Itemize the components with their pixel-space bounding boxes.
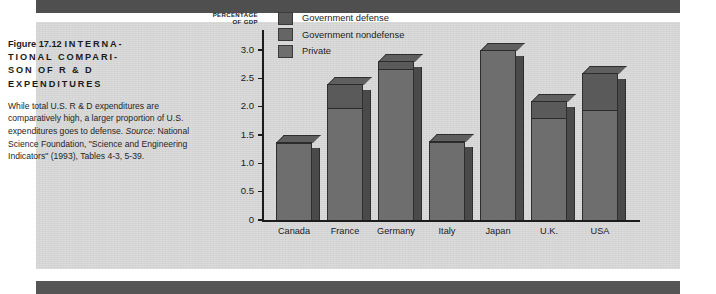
- bar-segment-government-defense: [430, 141, 464, 142]
- bar-segment-private: [583, 136, 617, 220]
- bar-front-face: [582, 73, 618, 220]
- bar-segment-government-nondefense: [481, 50, 515, 80]
- y-axis-tick: [258, 219, 264, 220]
- bar-italy: [429, 141, 465, 220]
- bar-side-face: [312, 148, 320, 220]
- bar-segment-government-defense: [379, 61, 413, 68]
- bar-side-face: [516, 56, 524, 220]
- bar-segment-government-defense: [583, 73, 617, 110]
- legend-swatch: [278, 12, 293, 25]
- figure-number: Figure 17.12: [8, 39, 62, 49]
- y-axis-tick: [258, 106, 264, 107]
- y-axis-tick-label: 1.0: [228, 157, 254, 168]
- x-axis-label: Germany: [370, 226, 422, 236]
- x-axis-label: France: [319, 226, 371, 236]
- bar-segment-private: [328, 149, 362, 220]
- bar-side-face: [618, 79, 626, 220]
- y-axis-tick: [258, 191, 264, 192]
- y-axis-tick: [258, 78, 264, 79]
- legend-swatch: [278, 28, 293, 41]
- bar-segment-government-defense: [532, 101, 566, 118]
- chart-legend: Government defenseGovernment nondefenseP…: [278, 10, 404, 60]
- bar-segment-private: [481, 80, 515, 220]
- caption-title-line-3: SON OF R & D: [8, 65, 94, 75]
- x-axis-label: Italy: [421, 226, 473, 236]
- bar-front-face: [480, 50, 516, 220]
- x-axis-label: USA: [574, 226, 626, 236]
- rd-expenditures-chart: PERCENTAGE OF GDP 00.51.01.52.02.53.0 Ca…: [196, 6, 644, 247]
- y-axis-title-line-2: OF GDP: [233, 18, 258, 25]
- y-axis-tick-label: 0.5: [228, 185, 254, 196]
- bar-uk: [531, 101, 567, 220]
- caption-source-label: Source:: [126, 126, 158, 136]
- caption-title: Figure 17.12 INTERNA- TIONAL COMPARI- SO…: [8, 38, 213, 91]
- y-axis-tick-label: 2.5: [228, 72, 254, 83]
- y-axis-tick-label: 1.5: [228, 129, 254, 140]
- bar-france: [327, 84, 363, 220]
- y-axis-tick: [258, 134, 264, 135]
- bar-usa: [582, 73, 618, 220]
- caption-body: While total U.S. R & D expenditures are …: [8, 100, 213, 163]
- legend-swatch: [278, 45, 293, 58]
- y-axis-tick: [258, 163, 264, 164]
- bar-segment-government-defense: [277, 142, 311, 143]
- bar-front-face: [276, 142, 312, 220]
- legend-item: Private: [278, 43, 404, 60]
- x-axis-label: Japan: [472, 226, 524, 236]
- bar-segment-private: [532, 140, 566, 220]
- bar-side-face: [567, 107, 575, 220]
- bar-japan: [480, 50, 516, 220]
- x-axis-label: U.K.: [523, 226, 575, 236]
- bar-segment-government-nondefense: [532, 118, 566, 140]
- bar-segment-government-defense: [328, 84, 362, 108]
- bar-side-face: [363, 90, 371, 220]
- bar-side-face: [414, 67, 422, 220]
- legend-item: Government defense: [278, 10, 404, 27]
- y-axis-title-line-1: PERCENTAGE: [213, 11, 258, 18]
- bar-segment-government-nondefense: [328, 108, 362, 149]
- legend-label: Government defense: [302, 13, 389, 23]
- bar-segment-government-nondefense: [583, 110, 617, 137]
- bar-segment-government-nondefense: [379, 69, 413, 119]
- bar-front-face: [429, 141, 465, 220]
- bar-segment-private: [430, 181, 464, 220]
- y-axis-tick-label: 2.0: [228, 100, 254, 111]
- bar-side-face: [465, 147, 473, 220]
- page-band-bottom: [36, 281, 680, 294]
- x-axis-label: Canada: [268, 226, 320, 236]
- bar-canada: [276, 142, 312, 220]
- bar-segment-private: [379, 119, 413, 220]
- y-axis-line: [262, 30, 264, 222]
- bar-front-face: [531, 101, 567, 220]
- y-axis-tick-label: 3.0: [228, 44, 254, 55]
- legend-label: Private: [302, 46, 331, 56]
- caption-title-line-1: INTERNA-: [64, 39, 123, 49]
- caption-title-line-4: EXPENDITURES: [8, 79, 102, 89]
- legend-label: Government nondefense: [302, 30, 404, 40]
- caption-title-line-2: TIONAL COMPARI-: [8, 52, 119, 62]
- y-axis-title: PERCENTAGE OF GDP: [200, 11, 258, 26]
- bar-segment-government-nondefense: [430, 142, 464, 182]
- figure-caption: Figure 17.12 INTERNA- TIONAL COMPARI- SO…: [8, 38, 213, 163]
- y-axis-tick: [258, 49, 264, 50]
- bar-germany: [378, 61, 414, 220]
- x-axis-line: [262, 220, 640, 222]
- bar-segment-private: [277, 176, 311, 220]
- bar-front-face: [327, 84, 363, 220]
- bar-segment-government-nondefense: [277, 143, 311, 176]
- bar-front-face: [378, 61, 414, 220]
- y-axis-tick-label: 0: [228, 214, 254, 225]
- legend-item: Government nondefense: [278, 27, 404, 44]
